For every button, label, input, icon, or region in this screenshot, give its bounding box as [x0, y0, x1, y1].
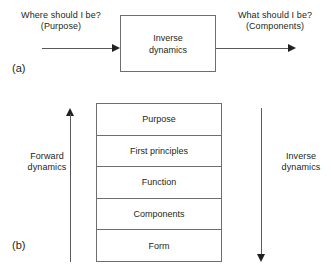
output-label-components: What should I be? (Components) [219, 10, 331, 32]
inverse-dynamics-arrow-icon [257, 108, 266, 262]
stack-row: Function [97, 167, 221, 199]
stack-row-label: First principles [130, 146, 188, 156]
arrow-head-down [257, 254, 265, 262]
stack-row-label: Purpose [142, 114, 176, 124]
output-arrow-icon [216, 44, 296, 53]
stack-row: Components [97, 199, 221, 231]
panel-a: Where should I be? (Purpose) What should… [0, 0, 331, 88]
stack-row: Form [97, 230, 221, 261]
stack-row: First principles [97, 136, 221, 168]
inverse-dynamics-label: Inverse dynamics [272, 151, 330, 173]
arrow-shaft [261, 108, 262, 256]
stack-row: Purpose [97, 104, 221, 136]
figure-container: Where should I be? (Purpose) What should… [0, 0, 331, 279]
arrow-shaft [216, 48, 290, 49]
input-arrow-icon [42, 44, 120, 53]
forward-dynamics-label: Forward dynamics [14, 151, 80, 173]
stack-row-label: Form [149, 241, 170, 251]
stack-row-label: Components [133, 209, 184, 219]
panel-b-caption: (b) [12, 239, 25, 252]
inverse-dynamics-box: Inverse dynamics [120, 15, 216, 72]
stack-row-label: Function [142, 177, 177, 187]
inverse-dynamics-box-label: Inverse dynamics [121, 32, 215, 56]
arrow-shaft [42, 48, 114, 49]
input-label-purpose: Where should I be? (Purpose) [5, 10, 117, 32]
forward-dynamics-arrow-icon [66, 108, 75, 262]
arrow-shaft [70, 114, 71, 262]
arrow-head [288, 44, 296, 52]
panel-a-caption: (a) [12, 62, 25, 75]
arrow-head [112, 44, 120, 52]
panel-b: Forward dynamics Purpose First principle… [0, 88, 331, 279]
hierarchy-stack: Purpose First principles Function Compon… [96, 103, 222, 262]
